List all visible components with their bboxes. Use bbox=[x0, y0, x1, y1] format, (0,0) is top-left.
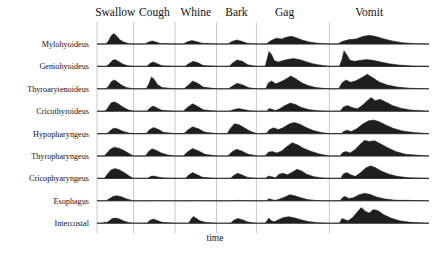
emg-channel-cricophyaryngeus bbox=[97, 166, 429, 179]
channel-waveform bbox=[97, 33, 429, 44]
row-label-thyroarytenoideus: Thyroarytenoideus bbox=[27, 84, 89, 93]
channel-waveform bbox=[97, 193, 429, 200]
column-header-cough: Cough bbox=[139, 6, 170, 18]
emg-channel-geniohyoideus bbox=[97, 51, 429, 67]
channel-waveform bbox=[97, 74, 429, 89]
row-label-mylohyoideus: Mylohyoideus bbox=[42, 40, 89, 49]
row-label-cricothyroideus: Cricothyroideus bbox=[36, 107, 89, 116]
channel-waveform bbox=[97, 120, 429, 134]
channel-waveform bbox=[97, 208, 429, 224]
row-label-geniohyoideus: Geniohyoideus bbox=[39, 62, 89, 71]
emg-channel-thyroarytenoideus bbox=[97, 74, 429, 89]
row-label-intercostal: Intercostal bbox=[54, 219, 89, 228]
x-axis-label: time bbox=[207, 233, 224, 243]
emg-figure-panel: SwallowCoughWhineBarkGagVomit Mylohyoide… bbox=[0, 0, 439, 260]
column-header-swallow: Swallow bbox=[95, 6, 135, 18]
column-header-vomit: Vomit bbox=[355, 6, 383, 18]
emg-channel-intercostal bbox=[97, 208, 429, 224]
row-label-hypopharyngeus: Hypopharyngeus bbox=[33, 129, 89, 138]
row-label-cricophyaryngeus: Cricophyaryngeus bbox=[29, 174, 89, 183]
emg-channel-thyropharyngeus bbox=[97, 140, 429, 156]
column-header-gag: Gag bbox=[275, 6, 294, 18]
emg-channel-cricothyroideus bbox=[97, 98, 429, 112]
emg-channel-hypopharyngeus bbox=[97, 120, 429, 134]
channel-waveform bbox=[97, 166, 429, 179]
channel-waveform bbox=[97, 98, 429, 112]
emg-channel-esophagus bbox=[97, 193, 429, 200]
channel-waveform bbox=[97, 140, 429, 156]
emg-channel-mylohyoideus bbox=[97, 33, 429, 44]
row-label-thyropharyngeus: Thyropharyngeus bbox=[31, 152, 89, 161]
row-label-esophagus: Esophagus bbox=[54, 196, 89, 205]
channel-waveform bbox=[97, 51, 429, 67]
column-header-whine: Whine bbox=[180, 6, 211, 18]
column-header-bark: Bark bbox=[225, 6, 247, 18]
